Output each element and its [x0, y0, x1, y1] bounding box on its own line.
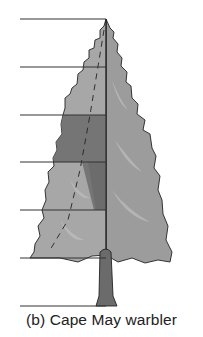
canopy-right [106, 19, 172, 263]
tree-diagram [0, 0, 203, 337]
figure-caption: (b) Cape May warbler [0, 311, 203, 329]
